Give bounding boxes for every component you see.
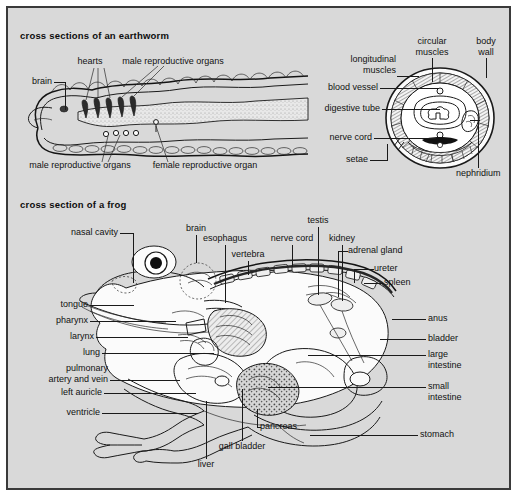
leader-adrenal-h bbox=[338, 251, 348, 252]
leader-spleen bbox=[364, 283, 384, 284]
frog-label-stomach: stomach bbox=[420, 429, 476, 440]
leader-vertebra bbox=[248, 261, 249, 275]
frog-label-gall-bladder: gall bladder bbox=[204, 441, 280, 452]
diagram-plate: cross sections of an earthworm bbox=[6, 6, 511, 490]
leader-lung bbox=[102, 353, 214, 354]
leader-kidney bbox=[342, 245, 343, 301]
leader-nasal-cavity-v bbox=[133, 233, 134, 283]
leader-setae-v bbox=[387, 144, 388, 160]
frog-label-small-intestine: small intestine bbox=[428, 381, 488, 402]
frog-label-larynx: larynx bbox=[48, 331, 94, 342]
earthworm-figure: cross sections of an earthworm bbox=[8, 8, 513, 183]
frog-label-esophagus: esophagus bbox=[194, 233, 256, 244]
body-wall-text: body wall bbox=[476, 36, 496, 57]
circular-muscles-line1: circular muscles bbox=[415, 36, 448, 57]
frog-figure: cross section of a frog bbox=[8, 183, 513, 488]
earthworm-label-nerve-cord: nerve cord bbox=[308, 132, 372, 143]
frog-label-pancreas: pancreas bbox=[260, 421, 316, 432]
leader-small-intestine bbox=[268, 387, 426, 388]
leader-nephridium-h bbox=[470, 120, 480, 121]
frog-label-liver: liver bbox=[186, 459, 226, 470]
leader-bladder bbox=[380, 339, 426, 340]
frog-label-pharynx: pharynx bbox=[40, 315, 88, 326]
leader-anus bbox=[392, 319, 426, 320]
earthworm-cross-section-drawing bbox=[8, 8, 513, 183]
longitudinal-muscles-text: longitudinal muscles bbox=[350, 54, 396, 75]
leader-pancreas-h bbox=[257, 427, 261, 428]
earthworm-label-blood-vessel: blood vessel bbox=[308, 82, 378, 93]
leader-pulmonary bbox=[110, 380, 180, 381]
frog-label-ventricle: ventricle bbox=[38, 407, 100, 418]
leader-tongue bbox=[90, 305, 134, 306]
frog-label-bladder: bladder bbox=[428, 333, 480, 344]
leader-large-intestine bbox=[308, 355, 426, 356]
leader-nerve-cord bbox=[374, 138, 436, 139]
large-intestine-text: large intestine bbox=[428, 349, 462, 370]
leader-body-wall bbox=[486, 58, 487, 78]
frog-label-vertebra: vertebra bbox=[220, 249, 276, 260]
leader-ureter bbox=[354, 269, 374, 270]
leader-larynx bbox=[96, 337, 188, 338]
frog-label-kidney: kidney bbox=[320, 233, 364, 244]
leader-pancreas-v bbox=[257, 409, 258, 427]
frog-label-brain: brain bbox=[176, 223, 216, 234]
leader-gall-bladder bbox=[242, 389, 243, 441]
small-intestine-text: small intestine bbox=[428, 381, 462, 402]
frog-label-nerve-cord: nerve cord bbox=[260, 233, 324, 244]
frog-label-adrenal-gland: adrenal gland bbox=[348, 245, 426, 256]
earthworm-label-setae: setae bbox=[328, 154, 368, 165]
earthworm-label-nephridium: nephridium bbox=[456, 168, 516, 179]
earthworm-label-body-wall: body wall bbox=[466, 36, 506, 57]
leader-circular-muscles bbox=[432, 58, 433, 82]
leader-ureter-v bbox=[354, 269, 355, 283]
leader-nephridium bbox=[478, 120, 479, 168]
frog-label-anus: anus bbox=[428, 313, 468, 324]
leader-digestive-tube bbox=[382, 109, 440, 110]
earthworm-label-digestive-tube: digestive tube bbox=[304, 103, 380, 114]
leader-nerve-cord-frog bbox=[292, 245, 293, 267]
earthworm-label-circular-muscles: circular muscles bbox=[404, 36, 460, 57]
leader-longitudinal bbox=[397, 76, 419, 77]
leader-adrenal-v bbox=[338, 251, 339, 297]
frog-label-pulmonary: pulmonary artery and vein bbox=[22, 363, 108, 384]
frog-label-large-intestine: large intestine bbox=[428, 349, 488, 370]
frog-label-tongue: tongue bbox=[40, 299, 88, 310]
leader-blood-vessel bbox=[380, 88, 438, 89]
frog-label-spleen: spleen bbox=[384, 277, 430, 288]
leader-setae bbox=[370, 160, 388, 161]
frog-label-ureter: ureter bbox=[374, 263, 422, 274]
leader-stomach bbox=[310, 435, 418, 436]
frog-label-left-auricle: left auricle bbox=[36, 387, 102, 398]
leader-testis bbox=[318, 227, 319, 295]
frog-label-nasal-cavity: nasal cavity bbox=[46, 227, 118, 238]
leader-pharynx bbox=[90, 321, 176, 322]
frog-label-lung: lung bbox=[60, 347, 100, 358]
earthworm-label-longitudinal-muscles: longitudinal muscles bbox=[326, 54, 396, 75]
leader-nasal-cavity bbox=[120, 233, 134, 234]
frog-label-testis: testis bbox=[298, 215, 338, 226]
pulmonary-text: pulmonary artery and vein bbox=[48, 363, 108, 384]
leader-left-auricle bbox=[104, 393, 196, 394]
leader-ventricle bbox=[102, 413, 198, 414]
